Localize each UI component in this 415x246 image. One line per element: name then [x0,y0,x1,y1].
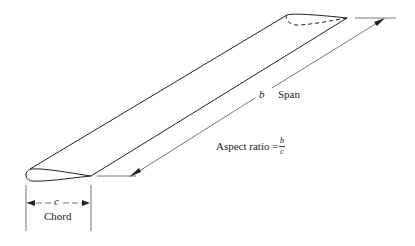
aspect-ratio-denominator: c [280,148,284,156]
tip-airfoil-upper [287,14,347,18]
span-dimension-line [133,98,255,175]
aspect-ratio-label: Aspect ratio = [216,141,278,152]
span-symbol: b [259,89,265,100]
aspect-ratio-fraction: b c [279,137,285,156]
span-arrow-tip-icon [374,18,385,26]
chord-label: Chord [44,211,72,222]
root-airfoil [26,169,91,181]
wing-trailing-edge [91,18,347,176]
chord-arrow-left-icon [27,200,35,206]
chord-arrow-right-icon [82,200,90,206]
span-label: Span [278,89,300,100]
chord-symbol: c [54,196,59,207]
aspect-ratio-numerator: b [280,137,284,145]
